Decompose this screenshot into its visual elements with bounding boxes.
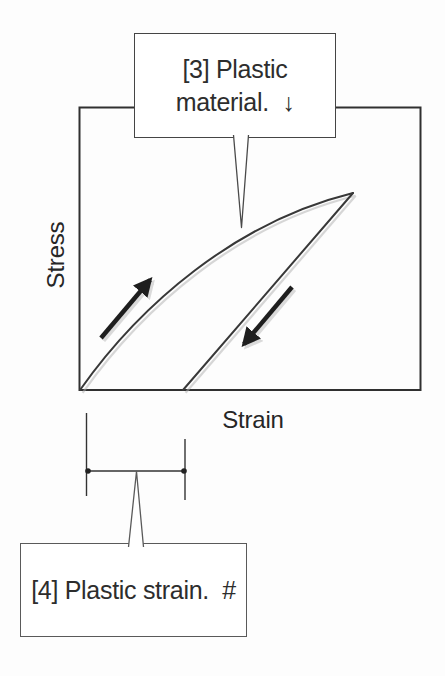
y-axis-label: Stress: [42, 185, 70, 325]
loading-curve: [80, 193, 353, 390]
callout-plastic-material-line2: material. ↓: [176, 86, 295, 119]
dimension-left-dot: [85, 468, 91, 474]
loading-direction-arrow-icon: [101, 280, 150, 338]
callout-pointer-top: [234, 135, 249, 228]
plot-frame: [80, 108, 421, 391]
plastic-strain-dimension: [87, 413, 186, 500]
callout-plastic-strain: [4] Plastic strain. #: [20, 543, 247, 637]
unloading-direction-arrow-icon: [244, 287, 292, 344]
curve-shadow: [83, 196, 356, 393]
callout-plastic-material-line1: [3] Plastic: [182, 53, 287, 86]
x-axis-label: Strain: [193, 406, 313, 434]
callout-pointer-bottom: [129, 472, 144, 548]
callout-plastic-material: [3] Plastic material. ↓: [134, 33, 336, 138]
arrow-shadow: [103, 283, 294, 347]
callout-plastic-strain-text: [4] Plastic strain. #: [31, 576, 236, 605]
figure-canvas: [3] Plastic material. ↓ [4] Plastic stra…: [0, 0, 445, 676]
dimension-right-dot: [181, 468, 187, 474]
unloading-curve: [183, 193, 353, 390]
